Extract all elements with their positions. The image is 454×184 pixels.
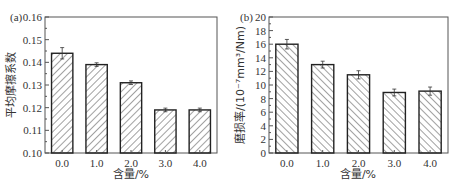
y-tick-label: 0.15: [23, 34, 43, 46]
bar: [52, 53, 73, 153]
bar: [120, 83, 141, 153]
chart-figure: 0.100.110.120.130.140.150.160.01.02.03.0…: [0, 0, 454, 184]
y-tick-label: 0.12: [23, 102, 42, 114]
y-tick-label: 0.14: [23, 56, 43, 68]
y-tick-label: 6: [261, 106, 267, 118]
x-tick-label: 0.0: [280, 157, 294, 169]
y-tick-label: 20: [255, 11, 267, 23]
chart-b-wear-rate: 024681012141618200.01.02.03.04.0含量/%磨损率/…: [233, 11, 448, 181]
y-tick-label: 8: [261, 93, 267, 105]
y-tick-label: 14: [255, 52, 267, 64]
y-tick-label: 10: [255, 79, 267, 91]
y-tick-label: 0.11: [23, 124, 42, 136]
bar: [419, 91, 441, 153]
chart-a-friction-coefficient: 0.100.110.120.130.140.150.160.01.02.03.0…: [4, 11, 217, 181]
x-tick-label: 4.0: [193, 157, 207, 169]
x-tick-label: 3.0: [387, 157, 401, 169]
x-tick-label: 1.0: [316, 157, 330, 169]
y-axis-title: 磨损率/(10⁻⁷mm³/Nm): [233, 26, 247, 144]
bar: [86, 65, 107, 153]
bar: [347, 75, 369, 153]
y-axis-title: 平均摩擦系数: [4, 52, 18, 118]
y-tick-label: 16: [255, 38, 267, 50]
bar: [312, 65, 334, 153]
bar: [189, 110, 210, 153]
y-tick-label: 0.16: [23, 11, 43, 23]
panel-label: (b): [240, 11, 253, 24]
x-tick-label: 4.0: [423, 157, 437, 169]
y-tick-label: 18: [255, 25, 267, 37]
y-tick-label: 2: [261, 133, 267, 145]
y-tick-label: 12: [255, 65, 266, 77]
y-tick-label: 0.13: [23, 79, 43, 91]
y-tick-label: 4: [261, 120, 267, 132]
x-tick-label: 1.0: [90, 157, 104, 169]
panel-label: (a): [10, 11, 23, 24]
x-axis-title: 含量/%: [340, 167, 376, 181]
y-tick-label: 0: [261, 147, 267, 159]
x-tick-label: 3.0: [159, 157, 173, 169]
bar: [383, 92, 405, 153]
bar: [155, 110, 176, 153]
x-tick-label: 0.0: [55, 157, 69, 169]
x-axis-title: 含量/%: [113, 167, 149, 181]
bar: [276, 44, 298, 153]
y-tick-label: 0.10: [23, 147, 43, 159]
